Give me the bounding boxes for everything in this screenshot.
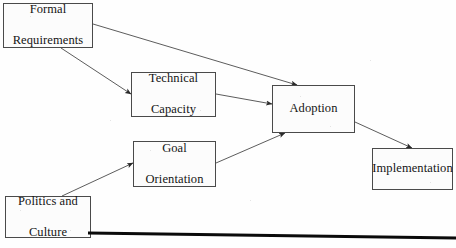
diagram-canvas: Formal Requirements Technical Capacity A… [0, 0, 456, 248]
baseline-rule [0, 0, 456, 248]
